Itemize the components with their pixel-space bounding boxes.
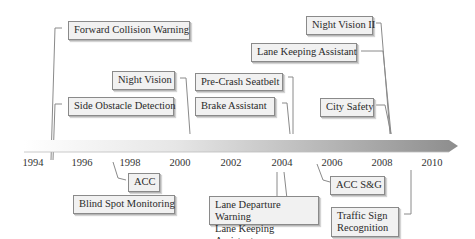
feature-blind-spot-monitoring: Blind Spot Monitoring bbox=[73, 195, 175, 214]
feature-lane-departure-warning-lane-keeping-assistant: Lane Departure Warning Lane Keeping Assi… bbox=[209, 196, 319, 225]
feature-forward-collision-warning: Forward Collision Warning bbox=[68, 21, 190, 40]
year-label: 1996 bbox=[72, 157, 93, 168]
feature-brake-assistant: Brake Assistant bbox=[195, 97, 275, 116]
year-label: 1998 bbox=[120, 157, 141, 168]
feature-traffic-sign-recognition: Traffic Sign Recognition bbox=[331, 207, 399, 237]
feature-acc-stop-and-go: ACC S&G bbox=[330, 176, 385, 195]
feature-acc: ACC bbox=[128, 173, 160, 192]
feature-night-vision: Night Vision bbox=[112, 71, 175, 90]
feature-night-vision-ii: Night Vision II bbox=[306, 16, 373, 35]
feature-pre-crash-seatbelt: Pre-Crash Seatbelt bbox=[195, 73, 283, 91]
timeline-arrow bbox=[24, 138, 464, 158]
feature-side-obstacle-detection: Side Obstacle Detection bbox=[68, 97, 174, 116]
year-label: 2004 bbox=[272, 157, 293, 168]
feature-lane-keeping-assistant: Lane Keeping Assistant bbox=[251, 43, 357, 62]
year-label: 2000 bbox=[170, 157, 191, 168]
year-label: 1994 bbox=[23, 157, 44, 168]
year-label: 2008 bbox=[372, 157, 393, 168]
year-label: 2010 bbox=[422, 157, 443, 168]
year-label: 2006 bbox=[322, 157, 343, 168]
year-label: 2002 bbox=[221, 157, 242, 168]
adas-timeline-diagram: 1994 1996 1998 2000 2002 2004 2006 2008 … bbox=[0, 0, 475, 239]
feature-city-safety: City Safety bbox=[320, 98, 374, 117]
